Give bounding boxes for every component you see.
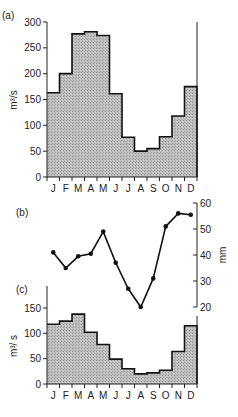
x-tick-label: D: [187, 390, 194, 401]
y-axis-title: m³/s: [8, 90, 19, 109]
panel-a-label: (a): [2, 10, 14, 21]
y-tick-label: 300: [24, 17, 41, 28]
x-tick-label: N: [175, 183, 182, 194]
x-tick-label: A: [87, 183, 94, 194]
y-tick-label: 150: [24, 303, 41, 314]
x-tick-label: S: [150, 390, 157, 401]
data-point: [138, 305, 143, 310]
y-tick-label: 40: [200, 250, 212, 261]
data-point: [76, 254, 81, 259]
hydrograph-figure: 050100150200250300JFMAMJJASONDm³/s 20304…: [0, 0, 238, 417]
y-tick-label: 250: [24, 42, 41, 53]
y-tick-label: 50: [200, 224, 212, 235]
x-tick-label: N: [175, 390, 182, 401]
y-tick-label: 100: [24, 120, 41, 131]
x-tick-label: S: [150, 183, 157, 194]
x-tick-label: D: [187, 183, 194, 194]
x-tick-label: A: [87, 390, 94, 401]
y-tick-label: 30: [200, 276, 212, 287]
y-tick-label: 200: [24, 68, 41, 79]
precip-line: [53, 213, 191, 307]
y-tick-label: 100: [24, 328, 41, 339]
panel-a-discharge-chart: 050100150200250300JFMAMJJASONDm³/s: [8, 17, 197, 195]
y-tick-label: 0: [35, 172, 41, 183]
x-tick-label: M: [74, 183, 82, 194]
data-point: [176, 211, 181, 216]
x-tick-label: J: [126, 183, 131, 194]
y-tick-label: 20: [200, 302, 212, 313]
data-point: [113, 261, 118, 266]
x-tick-label: A: [137, 390, 144, 401]
panel-c-label: (c): [16, 284, 28, 295]
y-tick-label: 0: [35, 379, 41, 390]
panel-c-discharge-chart: 050100150JFMAMJJASONDm³/ s: [8, 286, 197, 401]
x-tick-label: F: [63, 390, 69, 401]
y-tick-label: 150: [24, 94, 41, 105]
panel-b-label: (b): [16, 207, 28, 218]
data-point: [188, 212, 193, 217]
data-point: [101, 229, 106, 234]
x-tick-label: O: [162, 390, 170, 401]
data-point: [151, 276, 156, 281]
y-tick-label: 60: [200, 198, 212, 209]
y-axis-title: mm: [217, 247, 228, 264]
x-tick-label: M: [99, 183, 107, 194]
y-tick-label: 50: [30, 146, 42, 157]
data-point: [63, 266, 68, 271]
area-fill: [47, 314, 197, 384]
data-point: [51, 250, 56, 255]
x-tick-label: M: [99, 390, 107, 401]
x-tick-label: J: [113, 390, 118, 401]
data-point: [88, 251, 93, 256]
x-tick-label: F: [63, 183, 69, 194]
panel-b-precipitation-chart: 2030405060mm: [51, 198, 228, 313]
x-tick-label: J: [126, 390, 131, 401]
x-tick-label: J: [113, 183, 118, 194]
y-axis-title: m³/ s: [8, 335, 19, 357]
data-point: [163, 224, 168, 229]
x-tick-label: J: [51, 183, 56, 194]
x-tick-label: A: [137, 183, 144, 194]
data-point: [126, 287, 131, 292]
x-tick-label: M: [74, 390, 82, 401]
x-tick-label: J: [51, 390, 56, 401]
x-tick-label: O: [162, 183, 170, 194]
y-tick-label: 50: [30, 353, 42, 364]
